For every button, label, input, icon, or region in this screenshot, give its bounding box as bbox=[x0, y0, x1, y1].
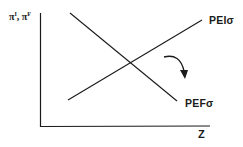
diagram: πI, πF PEIσ PEFσ Z bbox=[0, 0, 243, 147]
curved-arrow-icon bbox=[164, 56, 188, 79]
pef-curve bbox=[70, 13, 177, 101]
diagram-canvas bbox=[0, 0, 243, 147]
pei-curve-label: PEIσ bbox=[209, 15, 234, 26]
y-axis-label: πI, πF bbox=[9, 11, 31, 22]
pei-curve bbox=[68, 20, 202, 100]
x-axis bbox=[40, 126, 210, 127]
pef-curve-label: PEFσ bbox=[185, 98, 213, 109]
x-axis-label: Z bbox=[198, 129, 205, 140]
